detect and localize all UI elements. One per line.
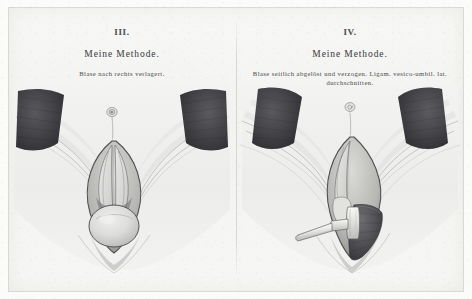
panel-figure-iv: IV. Meine Methode. Blase seitlich abgelö… bbox=[236, 7, 464, 292]
figure-image-iv bbox=[236, 85, 464, 285]
figure-caption-iii: Blase nach rechts verlagert. bbox=[8, 69, 236, 79]
right-thigh-drape-iv bbox=[398, 87, 448, 149]
left-thigh-drape-iii bbox=[16, 89, 64, 151]
retractor-neck-iv bbox=[330, 219, 348, 231]
retractor-blade-iv bbox=[347, 207, 360, 239]
panel-figure-iii: III. Meine Methode. Blase nach rechts ve… bbox=[8, 7, 236, 292]
engraving-iv bbox=[236, 85, 464, 285]
illustration-plate: III. Meine Methode. Blase nach rechts ve… bbox=[0, 0, 472, 299]
caption-block-iii: III. Meine Methode. Blase nach rechts ve… bbox=[8, 7, 236, 78]
method-title-iii: Meine Methode. bbox=[8, 50, 236, 60]
figure-number-iii: III. bbox=[8, 28, 236, 37]
method-title-iv: Meine Methode. bbox=[236, 50, 464, 60]
engraving-iii bbox=[8, 85, 236, 285]
right-thigh-drape-iii bbox=[180, 89, 228, 151]
bladder-gloss-iii bbox=[99, 214, 115, 224]
figure-image-iii bbox=[8, 85, 236, 285]
left-thigh-drape-iv bbox=[252, 87, 302, 149]
figure-number-iv: IV. bbox=[236, 28, 464, 37]
caption-block-iv: IV. Meine Methode. Blase seitlich abgelö… bbox=[236, 7, 464, 88]
exposed-bladder-iii bbox=[89, 205, 139, 247]
